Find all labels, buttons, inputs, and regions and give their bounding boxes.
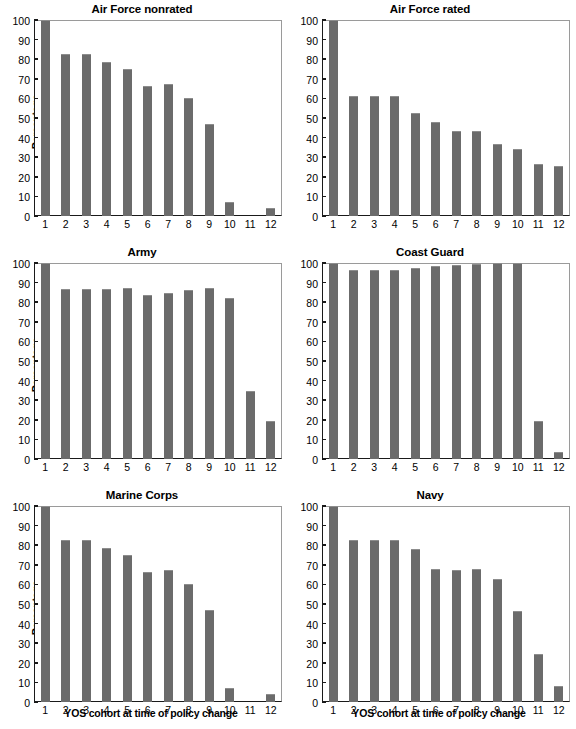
bar-slot (344, 20, 365, 216)
bar-slot (364, 506, 385, 702)
bar-slot (528, 20, 549, 216)
bar-slot (35, 263, 56, 459)
bar (225, 298, 234, 459)
y-tick: 90 (306, 274, 322, 292)
bar (534, 421, 543, 459)
bar-slot (385, 263, 406, 459)
bar-slot (446, 20, 467, 216)
x-tick-label: 8 (179, 459, 200, 477)
bar (205, 124, 214, 216)
bar (143, 572, 152, 702)
chart-panel: Air Force rated0102030405060708090100123… (288, 0, 576, 243)
bar-series (322, 20, 570, 216)
y-tick-label: 50 (18, 357, 34, 367)
y-tick-label: 100 (300, 502, 322, 512)
bar (329, 263, 338, 459)
bar (225, 202, 234, 216)
bar (266, 421, 275, 459)
y-tick-label: 40 (18, 620, 34, 630)
x-axis-label: YOS cohort at time of policy change (308, 707, 570, 719)
bar-slot (56, 20, 77, 216)
bar-slot (261, 20, 282, 216)
y-tick: 60 (306, 575, 322, 593)
bar (61, 540, 70, 702)
x-tick-label: 9 (199, 459, 220, 477)
bar-slot (446, 506, 467, 702)
y-tick-label: 30 (18, 153, 34, 163)
bar-slot (487, 20, 508, 216)
bar (411, 113, 420, 216)
x-tick-label: 4 (97, 216, 118, 234)
x-tick-label: 1 (35, 216, 56, 234)
x-tick-group: 123456789101112 (322, 459, 570, 477)
bar-slot (138, 506, 159, 702)
chart-panel: Coast Guard01020304050607080901001234567… (288, 243, 576, 486)
y-tick: 70 (306, 313, 322, 331)
y-tick-label: 10 (306, 678, 322, 688)
y-tick: 10 (18, 673, 34, 691)
chart-title: Navy (288, 488, 572, 502)
y-tick-label: 20 (306, 173, 322, 183)
chart-panel: Navy010203040506070809010012345678910111… (288, 486, 576, 729)
plot-area: 0102030405060708090100123456789101112 (322, 20, 570, 216)
x-tick-label: 8 (179, 216, 200, 234)
bar-slot (405, 20, 426, 216)
y-tick: 40 (18, 129, 34, 147)
x-tick-label: 11 (240, 216, 261, 234)
chart-title: Army (0, 245, 284, 259)
y-tick: 100 (300, 497, 322, 515)
y-tick-label: 10 (18, 192, 34, 202)
y-tick-label: 70 (306, 318, 322, 328)
bar (513, 149, 522, 216)
bar-slot (467, 263, 488, 459)
y-tick: 60 (18, 332, 34, 350)
bar-slot (97, 506, 118, 702)
chart-panel: ArmyPercentage01020304050607080901001234… (0, 243, 288, 486)
bar-slot (199, 506, 220, 702)
y-tick: 60 (306, 332, 322, 350)
x-tick-label: 2 (56, 459, 77, 477)
bar (431, 569, 440, 702)
y-tick: 80 (306, 293, 322, 311)
y-tick-label: 100 (300, 16, 322, 26)
y-tick: 50 (18, 109, 34, 127)
y-tick: 90 (18, 517, 34, 535)
chart-panel: Marine CorpsPercentage010203040506070809… (0, 486, 288, 729)
bar (102, 62, 111, 216)
y-tick-label: 0 (24, 455, 34, 465)
bar-slot (56, 263, 77, 459)
bar (452, 570, 461, 702)
y-tick-label: 20 (306, 416, 322, 426)
x-tick-label: 4 (385, 216, 406, 234)
x-tick-label: 9 (487, 459, 508, 477)
x-tick-label: 5 (117, 216, 138, 234)
bar (390, 270, 399, 459)
y-tick-label: 90 (18, 279, 34, 289)
y-tick: 80 (18, 293, 34, 311)
y-tick-label: 100 (12, 502, 34, 512)
x-tick-label: 3 (76, 216, 97, 234)
y-tick: 70 (306, 70, 322, 88)
y-tick: 30 (306, 148, 322, 166)
bar (554, 686, 563, 702)
bar-slot (76, 506, 97, 702)
bar (472, 131, 481, 216)
bar-slot (528, 506, 549, 702)
y-tick: 20 (18, 654, 34, 672)
y-tick: 60 (18, 575, 34, 593)
bar-slot (508, 506, 529, 702)
y-tick: 60 (18, 89, 34, 107)
bar-slot (35, 20, 56, 216)
x-tick-label: 9 (487, 216, 508, 234)
y-tick-label: 80 (306, 298, 322, 308)
bar (205, 610, 214, 702)
bar (534, 654, 543, 702)
x-tick-label: 7 (158, 216, 179, 234)
bar (205, 288, 214, 460)
y-tick: 40 (18, 615, 34, 633)
y-tick-label: 100 (12, 259, 34, 269)
bar (370, 270, 379, 459)
y-tick-label: 60 (18, 337, 34, 347)
x-tick-label: 5 (405, 459, 426, 477)
bar-slot (117, 506, 138, 702)
